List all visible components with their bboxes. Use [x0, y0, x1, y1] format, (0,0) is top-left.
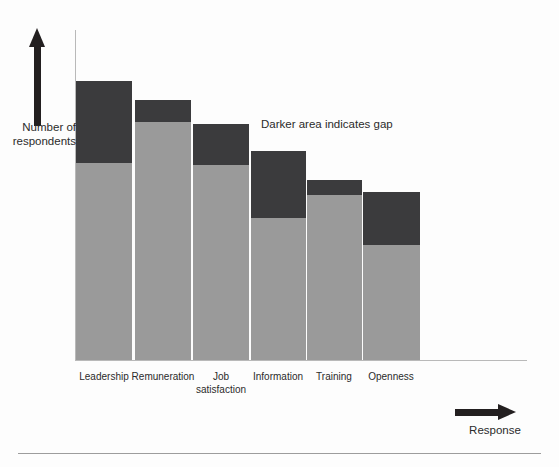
bar-openness: [363, 192, 420, 360]
bar-segment-gap: [307, 180, 362, 195]
gap-annotation: Darker area indicates gap: [261, 118, 393, 130]
bar-leadership: [76, 81, 132, 360]
bar-segment-gap: [135, 100, 191, 122]
bar-job-satisfaction: [193, 124, 249, 360]
bar-segment-actual: [76, 163, 132, 360]
right-arrow-head: [498, 404, 516, 420]
bar-segment-gap: [251, 151, 306, 218]
bar-information: [251, 151, 306, 360]
category-label-line: satisfaction: [173, 384, 269, 397]
bar-segment-actual: [363, 245, 420, 360]
bar-segment-gap: [76, 81, 132, 163]
plot-area: LeadershipRemunerationJobsatisfactionInf…: [0, 0, 559, 467]
x-axis-title: Response: [440, 424, 550, 436]
bar-segment-actual: [251, 218, 306, 360]
right-arrow-icon: [455, 404, 516, 421]
right-arrow-shaft: [455, 409, 503, 416]
category-label-line: Openness: [343, 371, 439, 384]
chart-figure: Number of respondents LeadershipRemunera…: [0, 0, 559, 467]
bar-segment-actual: [193, 165, 249, 360]
bar-segment-gap: [363, 192, 420, 245]
bar-segment-actual: [135, 122, 191, 360]
bar-segment-gap: [193, 124, 249, 165]
footer-divider: [18, 453, 541, 454]
bar-remuneration: [135, 100, 191, 360]
bar-segment-actual: [307, 195, 362, 360]
category-label-openness: Openness: [343, 371, 439, 384]
bar-training: [307, 180, 362, 360]
